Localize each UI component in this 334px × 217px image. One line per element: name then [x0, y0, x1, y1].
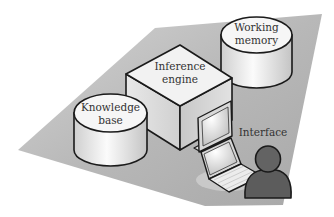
expert-system-diagram: Working memory Inference engine Knowledg…	[0, 0, 334, 217]
knowledge-base-cylinder[interactable]: Knowledge base	[74, 94, 147, 166]
working-memory-label-line2: memory	[235, 34, 278, 46]
inference-engine-label-line2: engine	[162, 73, 198, 85]
interface-label: Interface	[239, 126, 288, 138]
inference-engine-label-line1: Inference	[154, 60, 205, 72]
knowledge-base-label-line2: base	[98, 114, 123, 126]
working-memory-label-line1: Working	[234, 21, 279, 33]
knowledge-base-label-line1: Knowledge	[81, 101, 140, 113]
